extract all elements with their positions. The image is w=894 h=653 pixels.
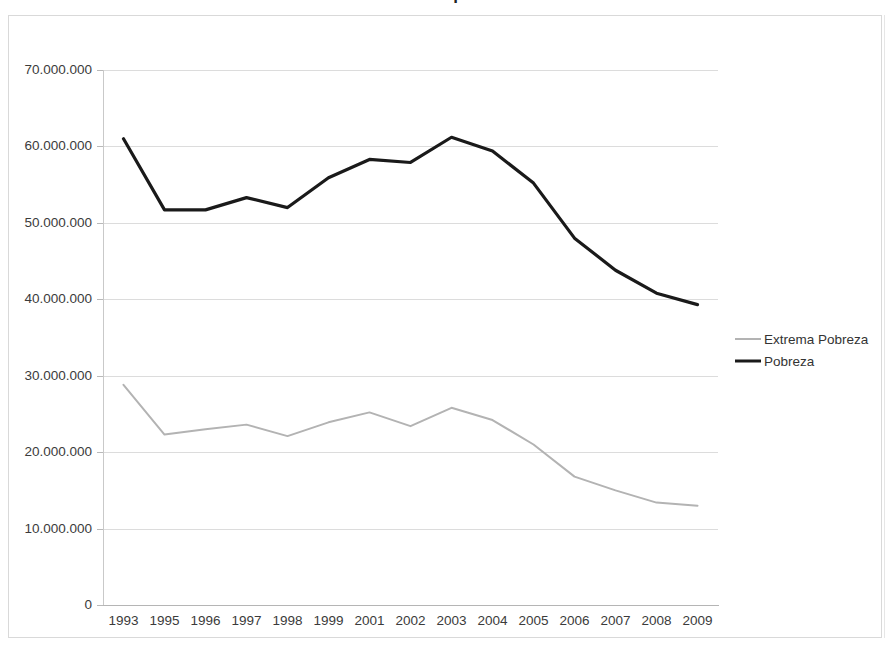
series-line-pobreza [124,137,698,304]
x-axis-tick-label: 2009 [682,612,712,630]
legend-swatch-extrema-icon [735,334,761,344]
series-line-extrema-pobreza [124,385,698,506]
x-axis-tick-label: 2002 [395,612,425,630]
x-axis-tick-label: 1997 [231,612,261,630]
chart-legend: Extrema PobrezaPobreza [735,328,885,372]
x-axis-tick-label: 1999 [313,612,343,630]
y-axis-tick-label: 40.000.000 [24,292,92,306]
x-axis-tick-label: 2004 [477,612,507,630]
legend-swatch-pobreza-icon [735,356,761,366]
right-edge-rule [884,15,885,638]
x-axis-tick-label: 1998 [272,612,302,630]
x-axis-tick-label: 1993 [108,612,138,630]
x-axis-tick-label: 1995 [149,612,179,630]
legend-label: Extrema Pobreza [761,332,868,347]
chart-container: Pobreza e extrema pobreza no Brasil 010.… [0,0,894,653]
x-axis-tick-labels: 1993199519961997199819992001200220032004… [103,612,718,636]
x-axis-tick-label: 2001 [354,612,384,630]
x-axis-tick-label: 1996 [190,612,220,630]
x-axis-tick-label: 2006 [559,612,589,630]
legend-item-pobreza[interactable]: Pobreza [735,350,885,372]
y-axis-tick-label: 20.000.000 [24,445,92,459]
y-axis-tick-label: 50.000.000 [24,216,92,230]
y-axis-tick-label: 70.000.000 [24,63,92,77]
chart-title: Pobreza e extrema pobreza no Brasil [0,0,894,6]
x-axis-tick-label: 2003 [436,612,466,630]
y-axis-tick-label: 60.000.000 [24,139,92,153]
x-axis-tick-label: 2005 [518,612,548,630]
y-axis-tick-label: 30.000.000 [24,369,92,383]
x-axis-tick-label: 2007 [600,612,630,630]
legend-item-extrema[interactable]: Extrema Pobreza [735,328,885,350]
y-axis-tick-label: 0 [84,598,92,612]
x-axis-tick-label: 2008 [641,612,671,630]
y-axis-tick-label: 10.000.000 [24,522,92,536]
legend-label: Pobreza [761,354,814,369]
y-axis-tick-labels: 010.000.00020.000.00030.000.00040.000.00… [0,70,92,606]
series-lines [103,70,718,606]
